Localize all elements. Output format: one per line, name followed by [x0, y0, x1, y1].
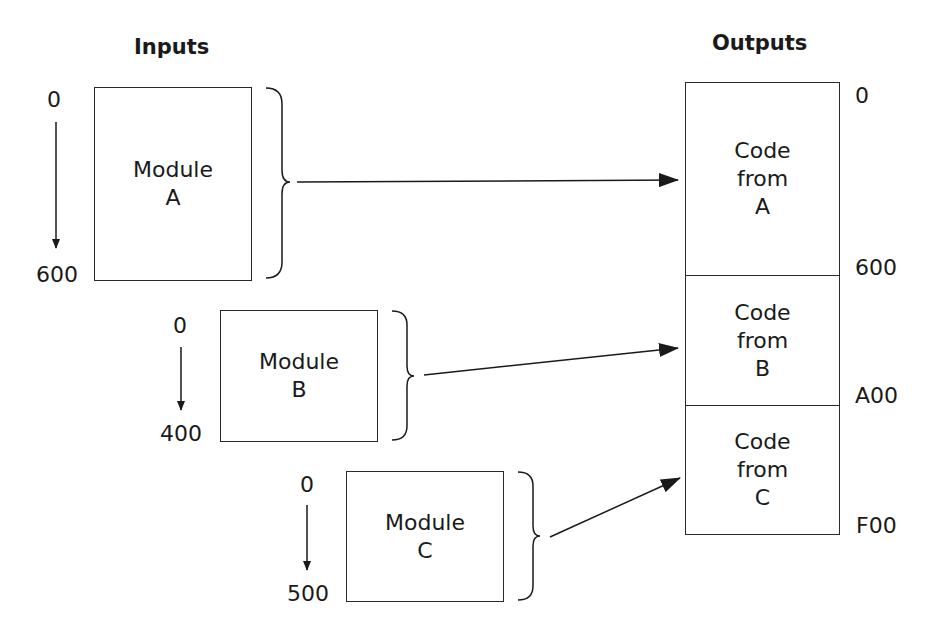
segment-a-line3: A [734, 193, 790, 221]
inputs-heading: Inputs [134, 37, 209, 58]
module-c-start-address: 0 [300, 474, 314, 496]
module-a-name: Module [133, 156, 213, 184]
module-b-name: Module [259, 348, 339, 376]
output-address-a00: A00 [855, 385, 898, 407]
module-a-end-address: 600 [36, 264, 78, 286]
module-a-letter: A [133, 184, 213, 212]
segment-b-line2: from [734, 327, 790, 355]
module-c-end-address: 500 [287, 583, 329, 605]
module-b-end-address: 400 [160, 423, 202, 445]
arrow-b-to-output [424, 348, 678, 375]
module-b-letter: B [259, 376, 339, 404]
segment-c-line1: Code [734, 428, 790, 456]
brace-a [266, 88, 290, 278]
brace-b [392, 311, 414, 440]
segment-b-line1: Code [734, 299, 790, 327]
segment-b-line3: B [734, 355, 790, 383]
module-a-start-address: 0 [47, 89, 61, 111]
module-b-box: Module B [220, 310, 378, 442]
arrow-c-to-output [550, 478, 680, 537]
output-segment-b: Code from B [686, 276, 839, 406]
module-c-box: Module C [346, 471, 504, 602]
output-segment-a: Code from A [686, 83, 839, 276]
segment-c-line2: from [734, 456, 790, 484]
module-a-box: Module A [94, 87, 252, 281]
arrow-a-to-output [297, 180, 678, 182]
segment-a-line1: Code [734, 137, 790, 165]
segment-c-line3: C [734, 484, 790, 512]
output-memory-block: Code from A Code from B Code from C [685, 82, 840, 535]
module-c-name: Module [385, 509, 465, 537]
output-address-0: 0 [855, 85, 869, 107]
output-segment-c: Code from C [686, 406, 839, 534]
output-address-600: 600 [855, 257, 897, 279]
outputs-heading: Outputs [712, 33, 807, 54]
output-address-f00: F00 [856, 515, 897, 537]
brace-c [518, 472, 540, 600]
segment-a-line2: from [734, 165, 790, 193]
module-c-letter: C [385, 537, 465, 565]
module-b-start-address: 0 [173, 315, 187, 337]
